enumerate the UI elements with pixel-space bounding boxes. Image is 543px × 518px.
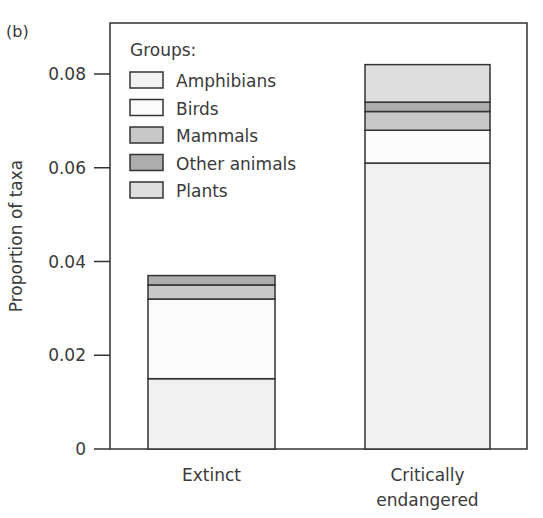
y-tick-label: 0 xyxy=(75,439,86,459)
legend-swatch xyxy=(130,100,163,116)
bar-segment-mammals xyxy=(148,285,275,299)
bar-segment-birds xyxy=(365,130,490,163)
bar-segment-birds xyxy=(148,299,275,379)
legend-title: Groups: xyxy=(130,40,196,60)
bar-segment-plants xyxy=(365,65,490,103)
legend-label: Mammals xyxy=(176,126,258,146)
x-tick-label: Critically xyxy=(390,465,464,485)
panel-label: (b) xyxy=(6,22,29,41)
y-tick-label: 0.08 xyxy=(48,64,86,84)
bars xyxy=(148,65,490,449)
x-axis-labels: ExtinctCriticallyendangered xyxy=(182,465,479,510)
y-axis-label: Proportion of taxa xyxy=(6,160,26,312)
legend-label: Amphibians xyxy=(176,71,276,91)
bar-segment-other-animals xyxy=(365,102,490,111)
y-tick-label: 0.04 xyxy=(48,252,86,272)
bar-segment-amphibians xyxy=(365,163,490,449)
legend: Groups: AmphibiansBirdsMammalsOther anim… xyxy=(130,40,296,201)
legend-label: Other animals xyxy=(176,154,296,174)
legend-swatch xyxy=(130,72,163,88)
legend-swatch xyxy=(130,127,163,143)
bar-segment-amphibians xyxy=(148,379,275,449)
legend-label: Birds xyxy=(176,99,219,119)
bar-segment-other-animals xyxy=(148,276,275,285)
y-tick-label: 0.06 xyxy=(48,158,86,178)
stacked-bar-chart: (b) 00.020.040.060.08 Proportion of taxa… xyxy=(0,0,543,518)
y-tick-label: 0.02 xyxy=(48,345,86,365)
legend-swatch xyxy=(130,155,163,171)
x-tick-label: endangered xyxy=(376,490,478,510)
x-tick-label: Extinct xyxy=(182,465,241,485)
bar-segment-mammals xyxy=(365,112,490,131)
legend-swatch xyxy=(130,182,163,198)
legend-label: Plants xyxy=(176,181,228,201)
y-axis: 00.020.040.060.08 xyxy=(48,64,110,459)
